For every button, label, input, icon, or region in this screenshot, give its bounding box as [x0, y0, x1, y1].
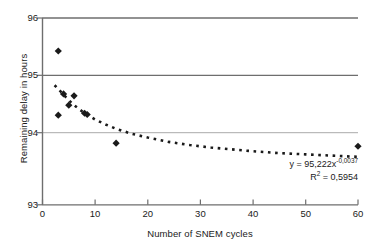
data-point	[55, 47, 62, 54]
y-axis-title: Remaining delay in hours	[18, 24, 29, 194]
x-tick-label-0: 0	[28, 209, 58, 219]
trendline-equation: y = 95,222x-0,0037	[290, 158, 358, 171]
y-tick-label-96: 96	[12, 13, 38, 23]
x-tick-label-60: 60	[343, 209, 370, 219]
x-axis-title: Number of SNEM cycles	[42, 228, 358, 239]
r-squared-number: = 0,5954	[320, 172, 358, 182]
data-point	[55, 112, 62, 119]
r-squared-value: R2 = 0,5954	[290, 171, 358, 184]
x-tick-label-40: 40	[238, 209, 268, 219]
equation-base: y = 95,222x	[290, 159, 337, 169]
x-tick-label-30: 30	[185, 209, 215, 219]
scatter-markers	[55, 47, 362, 149]
trendline-annotation: y = 95,222x-0,0037 R2 = 0,5954	[290, 158, 358, 184]
equation-exponent: -0,0037	[336, 157, 358, 164]
x-tick-label-50: 50	[291, 209, 321, 219]
chart-figure: 96 95 94 93 0 10 20 30 40 50 60 Remainin…	[0, 0, 370, 247]
x-axis-ticks	[43, 200, 359, 205]
data-point	[354, 143, 361, 150]
data-point	[113, 140, 120, 147]
data-point	[70, 92, 77, 99]
x-tick-label-20: 20	[133, 209, 163, 219]
trendline-power-fit	[55, 85, 358, 157]
x-tick-label-10: 10	[80, 209, 110, 219]
